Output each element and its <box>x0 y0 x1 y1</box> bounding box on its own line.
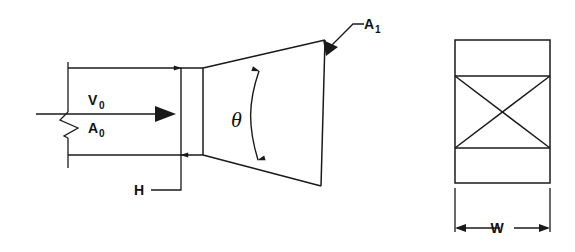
inlet-velocity-symbol: V <box>88 92 98 108</box>
flow-break-zigzag-icon <box>60 112 78 138</box>
end-section-view: W <box>455 40 550 236</box>
inlet-area-symbol: A <box>88 120 98 136</box>
diffuser-bottom-wall <box>203 155 321 186</box>
channel-height-symbol: H <box>134 182 144 198</box>
side-elevation-view: V 0 A 0 A 1 θ H <box>36 16 381 198</box>
diffuser-diagram: V 0 A 0 A 1 θ H W <box>0 0 575 252</box>
diffuser-top-wall <box>203 40 325 68</box>
outlet-area-symbol: A <box>364 16 374 32</box>
figure-root: V 0 A 0 A 1 θ H W <box>0 0 575 252</box>
width-arrowhead-left-icon <box>455 224 466 232</box>
outlet-area-subscript: 1 <box>375 24 381 35</box>
width-arrowhead-right-icon <box>539 224 550 232</box>
channel-width-symbol: W <box>490 220 504 236</box>
divergence-angle-arc <box>251 71 259 160</box>
divergence-angle-symbol: θ <box>231 107 242 132</box>
flow-direction-arrow-icon <box>155 106 176 122</box>
inlet-area-subscript: 0 <box>99 128 105 139</box>
diffuser-exit-face <box>321 40 325 186</box>
height-leader-line <box>151 155 181 190</box>
inlet-velocity-subscript: 0 <box>99 100 105 111</box>
